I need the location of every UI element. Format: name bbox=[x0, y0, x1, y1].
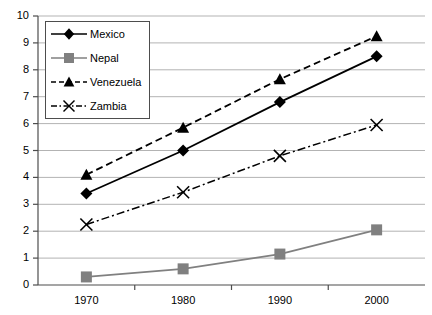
data-point-mexico-1980 bbox=[177, 145, 189, 157]
data-point-zambia-1990 bbox=[274, 150, 286, 162]
y-tick-label: 10 bbox=[7, 9, 29, 21]
x-tick-label: 1990 bbox=[250, 294, 310, 306]
data-point-mexico-1990 bbox=[274, 96, 286, 108]
y-tick-label: 5 bbox=[7, 144, 29, 156]
y-tick-label: 2 bbox=[7, 224, 29, 236]
triangle-marker bbox=[50, 73, 88, 91]
line-chart: 012345678910 1970198019902000 Mexico Nep… bbox=[0, 0, 432, 315]
data-point-nepal-1990 bbox=[274, 249, 285, 260]
y-tick-label: 0 bbox=[7, 278, 29, 290]
y-tick-label: 7 bbox=[7, 90, 29, 102]
diamond-marker bbox=[50, 25, 88, 43]
y-tick-label: 8 bbox=[7, 63, 29, 75]
data-point-zambia-2000 bbox=[371, 119, 383, 131]
data-point-venezuela-1970 bbox=[80, 169, 92, 180]
legend-item-nepal[interactable]: Nepal bbox=[46, 46, 149, 70]
legend-label-zambia: Zambia bbox=[90, 100, 127, 112]
x-marker bbox=[50, 97, 88, 115]
y-tick-label: 4 bbox=[7, 170, 29, 182]
data-point-venezuela-1990 bbox=[274, 73, 286, 84]
legend-label-mexico: Mexico bbox=[90, 28, 125, 40]
data-point-zambia-1970 bbox=[80, 218, 92, 230]
x-tick-label: 1970 bbox=[56, 294, 116, 306]
data-point-nepal-1980 bbox=[178, 263, 189, 274]
data-point-venezuela-2000 bbox=[371, 30, 383, 41]
data-point-mexico-1970 bbox=[80, 188, 92, 200]
y-tick-label: 6 bbox=[7, 117, 29, 129]
x-tick-label: 2000 bbox=[347, 294, 407, 306]
legend-item-mexico[interactable]: Mexico bbox=[46, 22, 149, 46]
y-tick-label: 9 bbox=[7, 36, 29, 48]
data-point-mexico-2000 bbox=[371, 50, 383, 62]
legend-label-nepal: Nepal bbox=[90, 52, 119, 64]
chart-legend: Mexico Nepal Venezuela Zambia bbox=[45, 21, 150, 119]
data-point-nepal-2000 bbox=[371, 224, 382, 235]
data-point-zambia-1980 bbox=[177, 186, 189, 198]
legend-item-zambia[interactable]: Zambia bbox=[46, 94, 149, 118]
legend-item-venezuela[interactable]: Venezuela bbox=[46, 70, 149, 94]
legend-label-venezuela: Venezuela bbox=[90, 76, 141, 88]
data-point-nepal-1970 bbox=[81, 271, 92, 282]
y-tick-label: 3 bbox=[7, 197, 29, 209]
square-marker bbox=[50, 49, 88, 67]
y-tick-label: 1 bbox=[7, 251, 29, 263]
series-line-nepal bbox=[86, 230, 376, 277]
x-tick-label: 1980 bbox=[153, 294, 213, 306]
